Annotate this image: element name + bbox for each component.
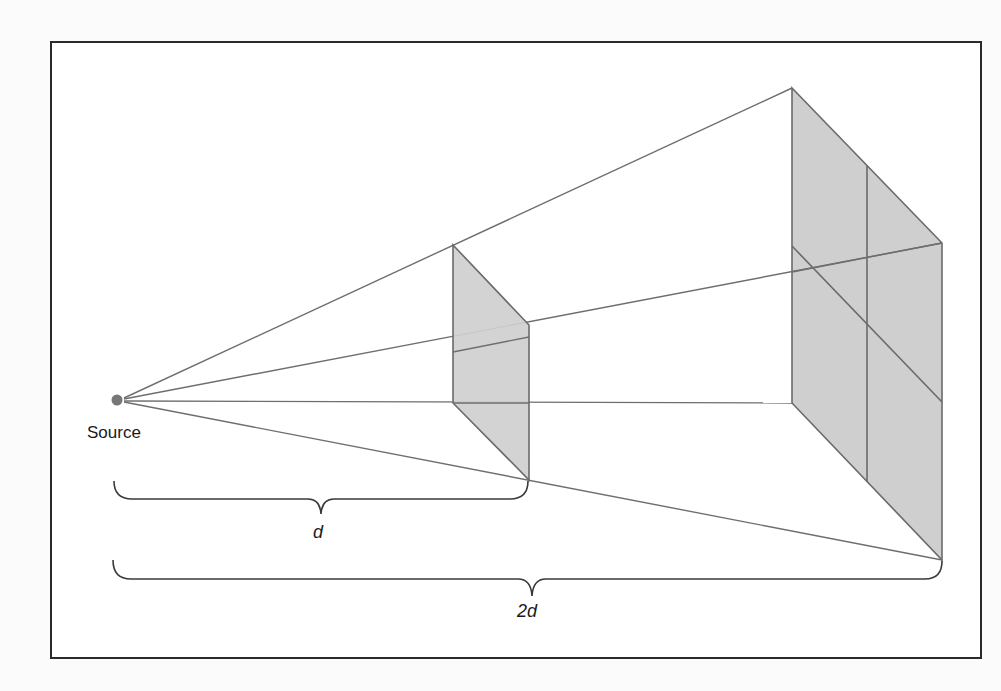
near-distance-label: d [313,522,324,542]
far-distance-label: 2d [516,601,538,621]
source-label: Source [87,423,141,442]
inverse-square-diagram: Source d 2d [0,0,1001,691]
source-dot [112,395,123,406]
